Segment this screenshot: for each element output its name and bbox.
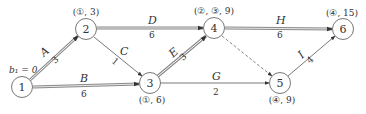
node-4-label: 4 xyxy=(211,22,218,35)
edge-a-duration: 3 xyxy=(50,54,61,65)
edge-b-name: B xyxy=(79,72,88,85)
node-6-annotation: (④, 15) xyxy=(326,8,358,18)
node-2-label: 2 xyxy=(83,23,90,36)
node-5: 5 xyxy=(270,73,291,94)
node-3-label: 3 xyxy=(147,77,154,90)
node-6: 6 xyxy=(333,19,354,40)
node-3: 3 xyxy=(140,73,161,94)
edge-c-duration: 1 xyxy=(110,56,121,67)
node-4: 4 xyxy=(204,18,225,39)
start-label: b₁ = 0 xyxy=(9,65,38,75)
edge-b-duration: 6 xyxy=(81,89,87,99)
edge-dummy-4-5 xyxy=(222,36,272,76)
edge-g-name: G xyxy=(212,70,221,83)
edge-d-duration: 6 xyxy=(149,30,155,40)
node-1-label: 1 xyxy=(19,81,26,94)
edge-h-duration: 6 xyxy=(277,30,283,40)
edge-g-duration: 2 xyxy=(213,87,219,97)
node-5-annotation: (④, 9) xyxy=(269,95,295,105)
edge-c-name: C xyxy=(120,45,129,58)
node-1: 1 xyxy=(12,77,33,98)
edge-i xyxy=(288,36,335,76)
node-6-label: 6 xyxy=(340,23,347,36)
node-3-annotation: (①, 6) xyxy=(139,95,165,105)
node-4-annotation: (②, ③, 9) xyxy=(194,6,234,16)
edge-h xyxy=(225,28,332,29)
network-diagram: A 3 B 6 C 1 D 6 E 3 G 2 H 6 I 4 1 2 3 4 … xyxy=(0,0,366,114)
node-2: 2 xyxy=(76,19,97,40)
node-5-label: 5 xyxy=(277,77,284,90)
edge-d-name: D xyxy=(147,14,157,27)
edge-i-duration: 4 xyxy=(305,54,316,65)
node-2-annotation: (①, 3) xyxy=(73,7,99,17)
edge-h-name: H xyxy=(275,14,286,27)
